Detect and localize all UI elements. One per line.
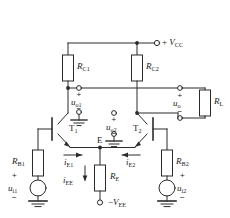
resistor-re-body [95,165,106,191]
terminal-vcc [154,40,159,45]
source-ui1-circle [30,180,46,196]
terminal-vee [97,200,102,205]
resistor-rc1-body [63,55,74,81]
sign-uo2-minus: − [112,130,117,138]
sign-uo1-minus: − [77,105,82,113]
arrow-ie1-head [76,153,82,158]
label-vee: −VEE [108,198,126,207]
label-rb2: RB2 [176,157,189,166]
label-ie1: iE1 [64,158,73,167]
label-re: RE [110,172,119,181]
label-ie2: iE2 [126,158,135,167]
label-rc2: RC2 [146,62,159,71]
sign-ui2-minus: − [180,194,185,202]
arrow-iee-head [83,176,88,182]
t2-emitter-arrow [135,142,141,148]
label-rl: RL [214,97,223,106]
source-ui2-circle [159,180,175,196]
wire-t1-collector-slant [58,113,68,124]
circuit-schematic [0,0,230,218]
label-iee: iEE [63,176,73,185]
sign-ui1-minus: − [12,194,17,202]
resistor-rl-body [200,90,211,116]
sign-uo-minus: − [178,108,183,116]
label-vcc: + VCC [162,38,183,47]
label-ui2: ui2 [177,184,186,193]
circuit-diagram-root: + VCC −VEE RC1 RC2 RB1 RB2 RE RL T1 T2 E… [0,0,230,218]
resistor-rc2-body [132,55,143,81]
label-t1: T1 [69,124,78,133]
label-rc1: RC1 [77,62,90,71]
label-rb1: RB1 [12,157,25,166]
label-t2: T2 [133,124,142,133]
resistor-rb2-body [162,150,173,176]
label-ui1: ui1 [8,184,17,193]
label-emitter-node: E [97,136,103,145]
t1-emitter-arrow [64,142,70,148]
sign-ui1-plus: + [12,172,17,180]
sign-ui2-plus: + [180,172,185,180]
resistor-rb1-body [33,150,44,176]
